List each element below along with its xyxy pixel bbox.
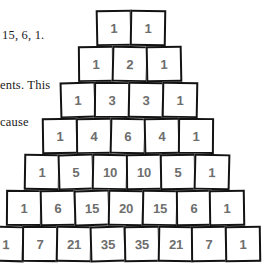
triangle-cell: 1 bbox=[78, 46, 114, 82]
triangle-cell: 21 bbox=[157, 226, 194, 263]
triangle-cell: 1 bbox=[60, 82, 97, 119]
triangle-cell: 3 bbox=[128, 82, 165, 119]
triangle-cell: 20 bbox=[107, 190, 144, 227]
triangle-cell: 21 bbox=[56, 226, 93, 263]
triangle-cell: 1 bbox=[177, 118, 213, 154]
triangle-cell: 6 bbox=[40, 190, 77, 227]
triangle-cell: 1 bbox=[225, 226, 261, 262]
triangle-cell: 2 bbox=[112, 46, 149, 83]
triangle-cell: 1 bbox=[145, 46, 182, 83]
triangle-row-1: 1 1 bbox=[96, 10, 166, 46]
triangle-cell: 6 bbox=[175, 190, 211, 226]
triangle-cell: 7 bbox=[22, 226, 58, 262]
triangle-cell: 15 bbox=[73, 190, 110, 227]
triangle-cell: 1 bbox=[96, 10, 133, 47]
triangle-cell: 1 bbox=[209, 190, 245, 226]
triangle-cell: 1 bbox=[0, 226, 24, 263]
triangle-cell: 1 bbox=[193, 154, 230, 191]
triangle-cell: 6 bbox=[109, 118, 146, 155]
triangle-row-2: 1 2 1 bbox=[78, 46, 182, 82]
triangle-cell: 5 bbox=[159, 154, 195, 190]
triangle-cell: 15 bbox=[141, 190, 178, 227]
triangle-cell: 35 bbox=[123, 226, 160, 263]
triangle-cell: 35 bbox=[89, 226, 126, 263]
triangle-cell: 1 bbox=[161, 82, 198, 119]
triangle-cell: 1 bbox=[6, 190, 42, 226]
triangle-cell: 4 bbox=[76, 118, 112, 154]
triangle-cell: 3 bbox=[94, 82, 130, 118]
triangle-cell: 4 bbox=[143, 118, 180, 155]
triangle-row-3: 1 3 3 1 bbox=[60, 82, 198, 118]
triangle-cell: 1 bbox=[130, 10, 167, 47]
triangle-cell: 10 bbox=[92, 154, 129, 191]
figure-page: 15, 6, 1. ents. This cause 1 1 1 2 1 1 3… bbox=[0, 0, 276, 275]
triangle-row-4: 1 4 6 4 1 bbox=[42, 118, 214, 154]
triangle-cell: 10 bbox=[126, 154, 162, 190]
triangle-cell: 5 bbox=[57, 154, 94, 191]
triangle-row-5: 1 5 10 10 5 1 bbox=[24, 154, 230, 190]
triangle-cell: 1 bbox=[42, 118, 78, 154]
triangle-row-6: 1 6 15 20 15 6 1 bbox=[6, 190, 245, 226]
triangle-cell: 1 bbox=[24, 154, 61, 191]
triangle-cell: 7 bbox=[191, 226, 227, 262]
pascals-triangle: 1 1 1 2 1 1 3 3 1 1 4 6 4 1 1 5 10 10 5 … bbox=[0, 0, 276, 275]
triangle-row-7: 1 7 21 35 35 21 7 1 bbox=[0, 226, 261, 262]
